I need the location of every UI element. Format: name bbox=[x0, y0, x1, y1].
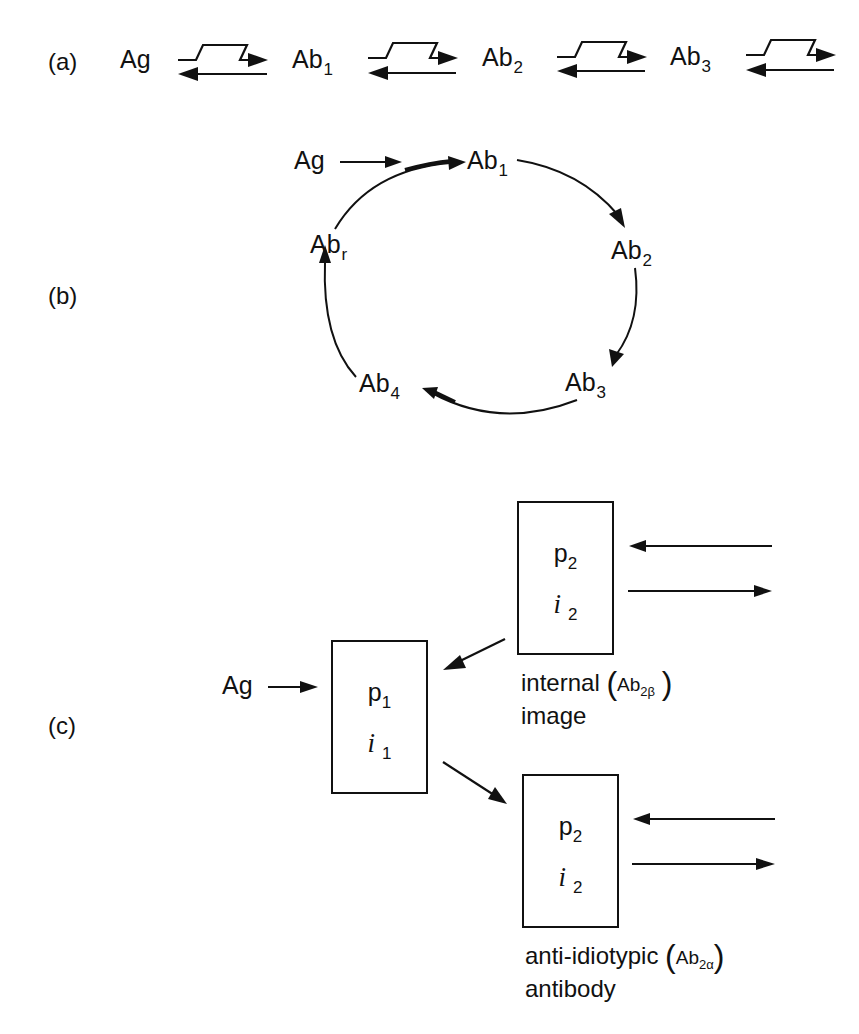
ab2beta-tag: Ab2β bbox=[617, 674, 655, 695]
equilibrium-arrow-2 bbox=[368, 43, 458, 80]
equilibrium-arrow-3 bbox=[557, 42, 647, 78]
close-paren: ) bbox=[662, 665, 673, 701]
node-text: Ab bbox=[359, 369, 390, 397]
i-text: i bbox=[368, 728, 376, 758]
panel-label-a: (a) bbox=[48, 48, 77, 76]
i-text: i bbox=[559, 862, 567, 892]
node-text: Ab bbox=[482, 43, 513, 71]
node-subscript: 1 bbox=[499, 161, 508, 180]
node-ab1-b: Ab1 bbox=[467, 148, 508, 179]
ag-input-arrow-c bbox=[268, 681, 318, 693]
node-ab2-b: Ab2 bbox=[611, 238, 652, 269]
i-text: i bbox=[554, 589, 562, 619]
node-ab2-a: Ab2 bbox=[482, 45, 523, 76]
p-subscript: 1 bbox=[382, 693, 391, 712]
p-subscript: 2 bbox=[573, 827, 582, 846]
node-subscript: 3 bbox=[597, 383, 606, 402]
node-ab4-b: Ab4 bbox=[359, 371, 400, 402]
node-ab3-b: Ab3 bbox=[565, 370, 606, 401]
caption-line-2: image bbox=[521, 702, 586, 729]
arrow-box1-to-bottom bbox=[443, 762, 507, 804]
paratope-label-top: p2 bbox=[519, 539, 612, 574]
ag-input-arrow-b bbox=[340, 156, 402, 168]
idiotype-box-1: p1 i 1 bbox=[331, 640, 428, 794]
p-subscript: 2 bbox=[568, 554, 577, 573]
i-subscript: 1 bbox=[382, 744, 391, 763]
tag-subscript: 2α bbox=[699, 957, 714, 972]
idiotype-box-top: p2 i 2 bbox=[517, 501, 614, 655]
node-subscript: 3 bbox=[702, 57, 711, 76]
node-text: Ab bbox=[310, 230, 341, 258]
idiotope-label-1: i 1 bbox=[333, 728, 426, 764]
equilibrium-arrow-4 bbox=[746, 40, 836, 77]
open-paren: ( bbox=[665, 938, 676, 974]
node-text: Ab bbox=[670, 42, 701, 70]
caption-anti-idiotypic: anti-idiotypic (Ab2α) antibody bbox=[525, 944, 724, 1001]
idiotope-label-bottom: i 2 bbox=[524, 862, 617, 898]
node-ab3-a: Ab3 bbox=[670, 44, 711, 75]
ab2alpha-tag: Ab2α bbox=[676, 947, 714, 968]
node-text: Ab bbox=[292, 45, 323, 73]
node-text: Ab bbox=[467, 146, 498, 174]
panel-label-c: (c) bbox=[48, 712, 76, 740]
node-subscript: 2 bbox=[643, 251, 652, 270]
p-text: p bbox=[554, 539, 568, 567]
caption-line-2: antibody bbox=[525, 975, 616, 1002]
paratope-label-bottom: p2 bbox=[524, 812, 617, 847]
node-abr-b: Abr bbox=[310, 232, 347, 263]
i-subscript: 2 bbox=[568, 605, 577, 624]
p-text: p bbox=[559, 812, 573, 840]
caption-line-1: internal bbox=[521, 669, 600, 696]
top-box-arrows bbox=[628, 540, 772, 597]
node-text: Ab bbox=[565, 368, 596, 396]
i-subscript: 2 bbox=[573, 878, 582, 897]
panel-label-b: (b) bbox=[48, 282, 77, 310]
paratope-label-1: p1 bbox=[333, 678, 426, 713]
tag-subscript: 2β bbox=[640, 684, 655, 699]
bottom-box-arrows bbox=[632, 813, 775, 870]
caption-internal-image: internal (Ab2β ) image bbox=[521, 671, 672, 728]
tag-text: Ab bbox=[676, 947, 699, 968]
node-text: Ab bbox=[611, 236, 642, 264]
node-ag-a: Ag bbox=[120, 47, 151, 72]
arrow-top-to-box1 bbox=[443, 639, 505, 670]
node-text: Ag bbox=[120, 45, 151, 73]
idiotope-label-top: i 2 bbox=[519, 589, 612, 625]
p-text: p bbox=[368, 678, 382, 706]
node-ag-b: Ag bbox=[294, 148, 325, 173]
caption-line-1: anti-idiotypic bbox=[525, 942, 658, 969]
node-subscript: 2 bbox=[514, 58, 523, 77]
close-paren: ) bbox=[714, 938, 725, 974]
node-subscript: 4 bbox=[391, 384, 400, 403]
node-ab1-a: Ab1 bbox=[292, 47, 333, 78]
node-ag-c: Ag bbox=[222, 673, 253, 698]
open-paren: ( bbox=[606, 665, 617, 701]
idiotype-box-bottom: p2 i 2 bbox=[522, 774, 619, 928]
node-subscript: 1 bbox=[324, 60, 333, 79]
diagram-lines bbox=[0, 0, 859, 1034]
node-subscript: r bbox=[342, 245, 348, 264]
tag-text: Ab bbox=[617, 674, 640, 695]
equilibrium-arrow-1 bbox=[178, 45, 268, 81]
